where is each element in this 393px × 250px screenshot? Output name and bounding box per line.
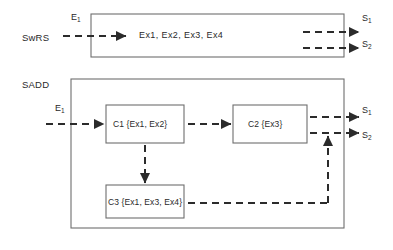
component-c3-label: C3 {Ex1, Ex3, Ex4} <box>108 198 182 207</box>
sadd-output-label-s1-sub: 1 <box>368 109 372 116</box>
block-diagram: SwRS Ex1, Ex2, Ex3, Ex4 E1 S1 S2 SADD E1… <box>0 0 393 250</box>
swrs-output-label-s2-sub: 2 <box>368 43 372 50</box>
swrs-input-label-e1: E1 <box>71 13 81 22</box>
swrs-content-text: Ex1, Ex2, Ex3, Ex4 <box>139 31 223 40</box>
swrs-output-label-s1: S1 <box>362 14 372 23</box>
sadd-input-label-e1: E1 <box>55 104 65 113</box>
tier-label-sadd: SADD <box>22 80 49 90</box>
swrs-output-label-s2: S2 <box>362 40 372 49</box>
sadd-output-label-s1: S1 <box>362 106 372 115</box>
tier-label-swrs: SwRS <box>22 33 49 43</box>
sadd-output-label-s2: S2 <box>362 131 372 140</box>
component-c1-label: C1 {Ex1, Ex2} <box>113 120 167 129</box>
sadd-output-label-s2-sub: 2 <box>368 134 372 141</box>
sadd-input-label-e1-sub: 1 <box>61 107 65 114</box>
swrs-input-label-e1-sub: 1 <box>77 16 81 23</box>
swrs-output-label-s1-sub: 1 <box>368 17 372 24</box>
component-c2-label: C2 {Ex3} <box>248 120 282 129</box>
